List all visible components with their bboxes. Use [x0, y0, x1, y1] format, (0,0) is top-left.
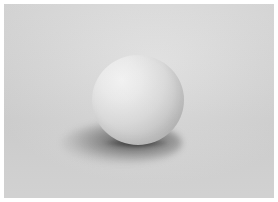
sphere — [92, 55, 184, 145]
image-frame — [0, 0, 278, 202]
photo — [4, 4, 274, 198]
